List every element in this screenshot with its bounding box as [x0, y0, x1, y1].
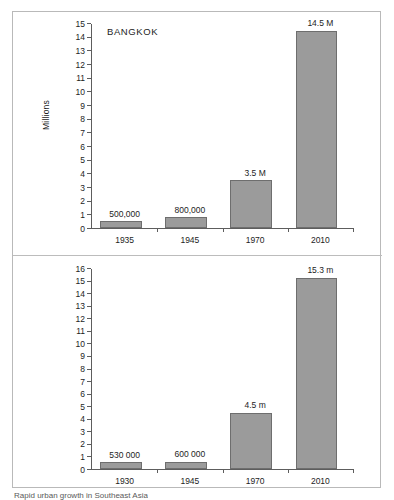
y-tick	[87, 306, 91, 307]
y-tick-label: 8	[80, 115, 85, 124]
bar-group: 530 0001930	[92, 269, 157, 469]
plot-area-bangkok: 0123456789101112131415 500,0001935800,00…	[91, 24, 353, 229]
y-tick	[87, 146, 91, 147]
bar-group: 14.5 M2010	[288, 24, 353, 228]
y-tick	[87, 331, 91, 332]
y-tick-label: 10	[76, 340, 85, 349]
bar-group: 4.5 m1970	[223, 269, 288, 469]
y-tick-label: 0	[80, 225, 85, 234]
y-tick-label: 2	[80, 197, 85, 206]
y-tick-label: 4	[80, 415, 85, 424]
y-tick	[87, 132, 91, 133]
y-tick-label: 1	[80, 453, 85, 462]
y-tick-label: 11	[76, 74, 85, 83]
x-category-label: 2010	[311, 235, 330, 245]
y-tick	[87, 293, 91, 294]
y-tick-label: 10	[76, 88, 85, 97]
bar-value-label: 14.5 M	[307, 19, 333, 28]
chart-jakarta: JAKARTA Millions 01234567891011121314151…	[13, 255, 382, 489]
y-tick	[87, 281, 91, 282]
bar-value-label: 500,000	[109, 210, 140, 219]
y-tick	[87, 160, 91, 161]
figure-frame: BANGKOK Millions 0123456789101112131415 …	[12, 11, 381, 488]
x-tick	[223, 228, 224, 232]
y-tick-label: 4	[80, 170, 85, 179]
x-category-label: 1945	[180, 476, 199, 486]
y-tick	[87, 394, 91, 395]
y-tick-label: 3	[80, 428, 85, 437]
bar-series-jakarta: 530 0001930600 00019454.5 m197015.3 m201…	[92, 269, 353, 469]
y-tick	[87, 369, 91, 370]
x-tick	[223, 469, 224, 473]
x-category-label: 1935	[115, 235, 134, 245]
x-category-label: 1945	[180, 235, 199, 245]
bar-value-label: 600 000	[175, 450, 206, 459]
y-tick-label: 6	[80, 143, 85, 152]
y-tick	[87, 406, 91, 407]
y-tick-label: 1	[80, 211, 85, 220]
bar	[230, 413, 272, 469]
y-tick	[87, 119, 91, 120]
y-tick-label: 5	[80, 403, 85, 412]
y-tick-label: 15	[76, 277, 85, 286]
y-tick-label: 12	[76, 61, 85, 70]
bar-group: 3.5 M1970	[223, 24, 288, 228]
y-tick-label: 14	[76, 290, 85, 299]
y-tick-label: 12	[76, 315, 85, 324]
bar-value-label: 15.3 m	[307, 266, 333, 275]
bar-value-label: 800,000	[175, 206, 206, 215]
y-tick	[87, 37, 91, 38]
y-tick	[87, 50, 91, 51]
y-tick-label: 9	[80, 102, 85, 111]
y-tick	[87, 105, 91, 106]
chart-bangkok: BANGKOK Millions 0123456789101112131415 …	[13, 12, 382, 255]
figure-caption: Rapid urban growth in Southeast Asia	[14, 491, 148, 500]
x-tick	[157, 228, 158, 232]
bar-group: 500,0001935	[92, 24, 157, 228]
x-tick	[288, 228, 289, 232]
y-tick-label: 13	[76, 302, 85, 311]
x-tick	[288, 469, 289, 473]
y-tick-label: 0	[80, 466, 85, 475]
y-tick-label: 3	[80, 184, 85, 193]
y-tick	[87, 431, 91, 432]
x-category-label: 2010	[311, 476, 330, 486]
y-tick	[87, 456, 91, 457]
y-tick-label: 16	[76, 265, 85, 274]
bar-value-label: 530 000	[109, 451, 140, 460]
x-tick	[353, 469, 354, 473]
bar	[165, 217, 207, 228]
y-tick	[87, 469, 91, 470]
y-tick-label: 9	[80, 352, 85, 361]
bar-value-label: 4.5 m	[244, 401, 265, 410]
y-tick	[87, 23, 91, 24]
y-tick	[87, 64, 91, 65]
y-tick	[87, 318, 91, 319]
y-tick	[87, 214, 91, 215]
y-tick	[87, 228, 91, 229]
y-tick	[87, 187, 91, 188]
y-tick	[87, 268, 91, 269]
y-tick-label: 15	[76, 20, 85, 29]
y-tick-label: 7	[80, 378, 85, 387]
y-axis-title-bangkok: Millions	[41, 100, 51, 130]
y-tick	[87, 78, 91, 79]
y-tick-label: 11	[76, 327, 85, 336]
plot-area-jakarta: 012345678910111213141516 530 0001930600 …	[91, 269, 353, 470]
bar	[165, 462, 207, 470]
bar	[296, 278, 338, 469]
y-tick	[87, 356, 91, 357]
bar-group: 15.3 m2010	[288, 269, 353, 469]
y-tick-label: 2	[80, 440, 85, 449]
y-tick	[87, 381, 91, 382]
bar-group: 600 0001945	[157, 269, 222, 469]
y-tick-label: 14	[76, 33, 85, 42]
x-tick	[353, 228, 354, 232]
y-tick-label: 7	[80, 129, 85, 138]
y-tick	[87, 343, 91, 344]
y-tick	[87, 419, 91, 420]
bar	[230, 180, 272, 228]
x-category-label: 1970	[246, 235, 265, 245]
bar-series-bangkok: 500,0001935800,00019453.5 M197014.5 M201…	[92, 24, 353, 228]
y-tick-label: 6	[80, 390, 85, 399]
